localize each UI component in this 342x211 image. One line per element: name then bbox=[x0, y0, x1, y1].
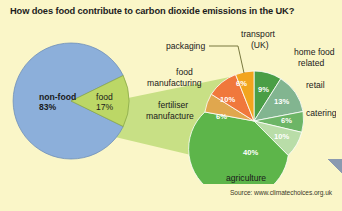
label-catering: catering bbox=[306, 108, 336, 118]
pct-agriculture: 40% bbox=[243, 148, 258, 157]
pie-chart-svg: non-food 83% food 17% 9% 13% bbox=[6, 24, 336, 184]
pct-transport: 9% bbox=[258, 85, 269, 94]
label-fertiliser-line2: manufacture bbox=[146, 111, 194, 121]
label-non-food-line1: non-food bbox=[39, 92, 76, 102]
pct-catering: 10% bbox=[274, 132, 289, 141]
pct-food-manufacturing: 10% bbox=[220, 95, 235, 104]
label-food-line1: food bbox=[96, 92, 113, 102]
packaging-leader-line bbox=[209, 46, 244, 73]
pct-home-food: 13% bbox=[274, 97, 289, 106]
label-food-manufacturing-line2: manufacturing bbox=[147, 78, 202, 88]
label-packaging: packaging bbox=[166, 41, 205, 51]
page-title: How does food contribute to carbon dioxi… bbox=[10, 6, 335, 17]
label-transport-line1: transport bbox=[241, 29, 276, 39]
page-corner-fold bbox=[326, 159, 342, 175]
label-home-food-line2: related bbox=[298, 58, 324, 68]
label-home-food-line1: home food bbox=[294, 47, 335, 57]
source-note: Source: www.climatechoices.org.uk bbox=[230, 189, 332, 196]
chart-figure: How does food contribute to carbon dioxi… bbox=[0, 0, 342, 211]
pct-retail: 6% bbox=[281, 116, 292, 125]
chart-plot-area: non-food 83% food 17% 9% 13% bbox=[6, 24, 336, 184]
label-food-manufacturing-line1: food bbox=[176, 67, 193, 77]
pct-packaging: 6% bbox=[236, 79, 247, 88]
label-fertiliser-line1: fertiliser bbox=[158, 100, 188, 110]
label-agriculture: agriculture bbox=[226, 173, 266, 183]
pct-fertiliser: 6% bbox=[216, 112, 227, 121]
label-food-line2: 17% bbox=[96, 102, 114, 112]
label-transport-line2: (UK) bbox=[251, 40, 269, 50]
label-non-food-line2: 83% bbox=[39, 102, 57, 112]
label-retail: retail bbox=[306, 80, 325, 90]
